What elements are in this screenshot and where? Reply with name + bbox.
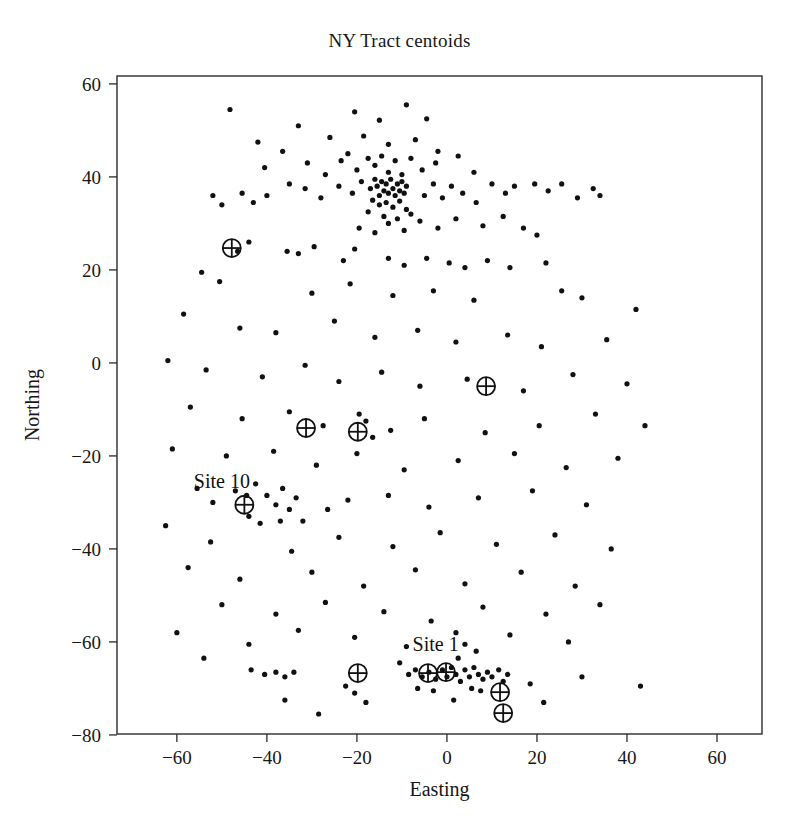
data-point	[476, 495, 481, 500]
data-point	[339, 158, 344, 163]
data-point	[375, 184, 380, 189]
data-point	[314, 463, 319, 468]
site-1-label: Site 1	[413, 633, 459, 655]
data-point	[352, 635, 357, 640]
data-point	[253, 481, 258, 486]
data-point	[208, 539, 213, 544]
data-point	[273, 670, 278, 675]
x-tick-label: 0	[442, 747, 452, 768]
data-point	[566, 639, 571, 644]
data-point	[271, 449, 276, 454]
data-point	[343, 683, 348, 688]
data-point	[478, 688, 483, 693]
data-point	[323, 600, 328, 605]
data-point	[462, 642, 467, 647]
data-point	[564, 465, 569, 470]
data-point	[485, 670, 490, 675]
data-point	[546, 188, 551, 193]
data-point	[541, 700, 546, 705]
data-point	[539, 344, 544, 349]
data-point	[399, 179, 404, 184]
data-point	[573, 584, 578, 589]
x-tick-label: 20	[527, 747, 546, 768]
data-point	[435, 149, 440, 154]
data-point	[447, 260, 452, 265]
data-point	[552, 532, 557, 537]
data-point	[438, 530, 443, 535]
data-point	[341, 258, 346, 263]
data-point	[424, 256, 429, 261]
data-point	[480, 677, 485, 682]
data-point	[456, 656, 461, 661]
data-point	[449, 184, 454, 189]
y-tick-label: 60	[82, 74, 101, 95]
data-point	[431, 688, 436, 693]
data-point	[282, 674, 287, 679]
data-point	[474, 200, 479, 205]
data-point	[372, 163, 377, 168]
data-point	[388, 428, 393, 433]
data-point	[204, 367, 209, 372]
data-point	[296, 251, 301, 256]
data-point	[507, 265, 512, 270]
data-point	[444, 674, 449, 679]
data-point	[237, 325, 242, 330]
data-point	[402, 263, 407, 268]
data-point	[404, 207, 409, 212]
data-point	[386, 191, 391, 196]
data-point	[532, 181, 537, 186]
data-point	[417, 218, 422, 223]
data-point	[372, 335, 377, 340]
x-tick-label: 40	[617, 747, 636, 768]
data-point	[469, 686, 474, 691]
data-point	[384, 181, 389, 186]
data-point	[246, 239, 251, 244]
data-point	[413, 667, 418, 672]
x-tick-label: 60	[707, 747, 726, 768]
data-point	[321, 423, 326, 428]
data-point	[591, 186, 596, 191]
data-point	[467, 674, 472, 679]
data-point	[609, 546, 614, 551]
data-point	[370, 198, 375, 203]
data-point	[474, 649, 479, 654]
data-point	[597, 193, 602, 198]
data-point	[395, 181, 400, 186]
data-point	[224, 453, 229, 458]
data-point	[480, 223, 485, 228]
data-point	[361, 584, 366, 589]
data-point	[390, 186, 395, 191]
data-point	[352, 690, 357, 695]
data-point	[399, 172, 404, 177]
site-marker	[494, 704, 512, 722]
data-point	[424, 116, 429, 121]
data-point	[388, 177, 393, 182]
data-point	[323, 172, 328, 177]
data-point	[386, 142, 391, 147]
data-point	[413, 137, 418, 142]
data-point	[404, 184, 409, 189]
data-point	[174, 630, 179, 635]
data-point	[422, 416, 427, 421]
data-point	[352, 109, 357, 114]
data-point	[415, 328, 420, 333]
site-marker-layer	[223, 239, 512, 722]
data-point	[348, 281, 353, 286]
data-point	[357, 411, 362, 416]
data-point	[361, 133, 366, 138]
data-point	[570, 372, 575, 377]
data-point	[402, 228, 407, 233]
data-point	[422, 193, 427, 198]
data-point	[163, 523, 168, 528]
data-point	[377, 202, 382, 207]
data-point	[327, 135, 332, 140]
data-point	[240, 416, 245, 421]
data-point	[426, 504, 431, 509]
data-point	[615, 456, 620, 461]
data-point	[462, 265, 467, 270]
data-point	[642, 423, 647, 428]
data-point	[494, 542, 499, 547]
data-point	[543, 611, 548, 616]
data-point	[501, 214, 506, 219]
data-point	[305, 160, 310, 165]
